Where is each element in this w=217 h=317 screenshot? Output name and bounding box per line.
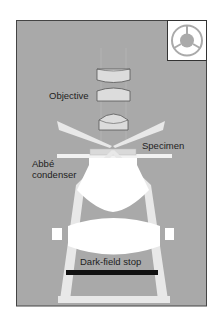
specimen-label: Specimen xyxy=(142,140,184,151)
objective-lens-middle xyxy=(97,88,130,101)
dark-field-stop-label: Dark-field stop xyxy=(80,256,141,267)
dark-field-stop-bar xyxy=(66,270,158,275)
objective-lens-top xyxy=(97,69,130,83)
patch-stop-icon xyxy=(168,21,207,61)
objective-label: Objective xyxy=(49,90,89,101)
condenser-label-line1: Abbé xyxy=(32,158,54,169)
condenser-label-line2: condenser xyxy=(32,169,76,180)
